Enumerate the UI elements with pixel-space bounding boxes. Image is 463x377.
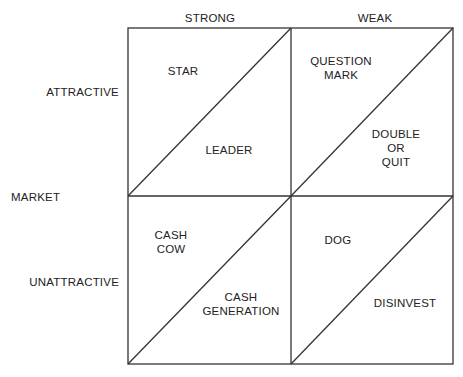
diagonal-unattractive-strong: [128, 196, 291, 364]
double-or-quit-line-2: OR: [366, 141, 426, 155]
row-axis-label-market: MARKET: [11, 190, 60, 204]
cell-label-star: STAR: [153, 64, 213, 78]
cell-label-question-mark: QUESTION MARK: [306, 54, 376, 82]
matrix-grid: [0, 0, 463, 377]
cell-label-leader: LEADER: [199, 143, 259, 157]
question-mark-line-1: QUESTION: [306, 54, 376, 68]
cell-label-cash-cow: CASH COW: [141, 228, 201, 256]
double-or-quit-line-3: QUIT: [366, 155, 426, 169]
row-header-unattractive: UNATTRACTIVE: [10, 275, 119, 289]
double-or-quit-line-1: DOUBLE: [366, 127, 426, 141]
diagonal-attractive-strong: [128, 28, 291, 196]
diagonal-unattractive-weak: [291, 196, 453, 364]
cash-cow-line-2: COW: [141, 242, 201, 256]
cash-generation-line-1: CASH: [199, 290, 283, 304]
cash-cow-line-1: CASH: [141, 228, 201, 242]
row-header-attractive: ATTRACTIVE: [10, 85, 119, 99]
cell-label-cash-generation: CASH GENERATION: [199, 290, 283, 318]
column-header-weak: WEAK: [335, 11, 415, 25]
cash-generation-line-2: GENERATION: [199, 304, 283, 318]
column-header-strong: STRONG: [170, 11, 250, 25]
cell-label-double-or-quit: DOUBLE OR QUIT: [366, 127, 426, 169]
cell-label-dog: DOG: [318, 233, 358, 247]
cell-label-disinvest: DISINVEST: [370, 296, 440, 310]
question-mark-line-2: MARK: [306, 68, 376, 82]
